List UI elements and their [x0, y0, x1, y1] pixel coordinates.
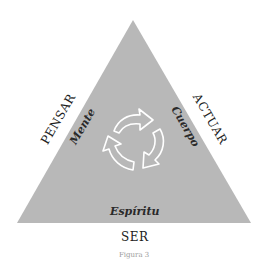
diagram-canvas	[0, 0, 267, 265]
diagram-figure: PENSAR ACTUAR SER Mente Cuerpo Espíritu …	[0, 0, 267, 265]
label-ser: SER	[121, 230, 149, 244]
figure-caption: Figura 3	[119, 251, 149, 259]
label-espiritu: Espíritu	[110, 205, 160, 218]
